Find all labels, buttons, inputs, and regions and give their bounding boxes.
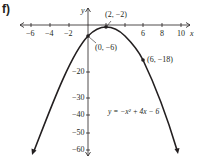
x-axis-label: x [190, 30, 194, 38]
point-6-neg18 [141, 58, 145, 62]
arrow-down-right-icon [175, 148, 180, 154]
y-axis [86, 8, 91, 156]
point-label-vertex: (2, −2) [105, 11, 127, 19]
x-tick-label: −4 [45, 30, 54, 38]
point-label-6-neg18: (6, −18) [147, 56, 173, 64]
y-tick-label: −50 [72, 129, 85, 137]
y-tick-label: −40 [72, 111, 85, 119]
point-label-y-intercept: (0, −6) [95, 44, 117, 52]
y-tick-label: −20 [72, 68, 85, 76]
y-tick-label: −60 [72, 146, 85, 154]
x-tick-label: 8 [160, 30, 164, 38]
x-tick-label: −2 [64, 30, 73, 38]
x-tick-label: 6 [141, 30, 145, 38]
part-label: f) [2, 2, 10, 16]
equation-label: y = −x² + 4x − 6 [108, 108, 159, 116]
parabola-graph [0, 0, 202, 158]
y-axis-label: y [81, 7, 85, 15]
x-tick-label: 10 [177, 30, 185, 38]
y-tick-label: −30 [72, 94, 85, 102]
curve-arrowheads [32, 148, 180, 155]
x-tick-label: −6 [26, 30, 35, 38]
